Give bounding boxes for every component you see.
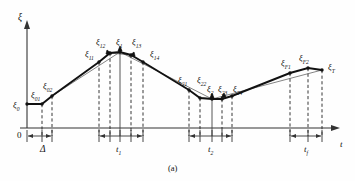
center-dropline-group [120, 52, 212, 136]
xtick-label-t2-sub: 2 [211, 150, 214, 156]
delta-arrow-right [46, 134, 51, 138]
plot-canvas [0, 0, 355, 181]
label-xi21: ξ21 [178, 76, 187, 87]
t1-arrow-right [137, 134, 142, 138]
xtick-label-t1-sub: 1 [119, 150, 122, 156]
label-xi1-sub: 1 [120, 43, 123, 49]
label-xi24: ξ24 [233, 85, 242, 96]
label-xi23-sub: 23 [222, 90, 228, 96]
label-xi12: ξ12 [96, 38, 105, 49]
dropline-group [42, 53, 322, 136]
xtick-label-t2: t2 [208, 145, 213, 156]
node-xi11 [97, 60, 100, 63]
xtick-label-delta: Δ [40, 145, 46, 156]
label-xi22: ξ22 [197, 76, 206, 87]
t1-arrow-left [100, 134, 105, 138]
xtick-label-tf-sub: f [307, 150, 309, 156]
delta-arrow-left [28, 134, 33, 138]
xtick-cluster-t1 [99, 130, 143, 142]
xtick-cluster-delta [27, 130, 52, 142]
y-axis-arrowhead [24, 20, 30, 29]
node-xiF1 [288, 71, 291, 74]
node-xi22 [198, 96, 201, 99]
tf-arrow-right [316, 134, 321, 138]
x-axis-arrowhead [331, 125, 340, 131]
label-xi11-sub: 11 [89, 55, 94, 61]
node-xi02 [50, 94, 53, 97]
label-xiF1-sub: F1 [285, 64, 291, 70]
figure-caption: (a) [168, 164, 177, 173]
origin-label: 0 [17, 131, 22, 140]
label-xi2: ξ2 [207, 85, 213, 96]
xtick-label-delta-base: Δ [40, 144, 46, 154]
x-axis-label: t [340, 140, 343, 149]
node-xiF2 [306, 66, 309, 69]
label-xiT-sub: T [332, 68, 335, 74]
label-xi13: ξ13 [132, 38, 141, 49]
label-xi11: ξ11 [85, 50, 94, 61]
label-xi02: ξ02 [43, 82, 52, 93]
y-axis-label: ξ [18, 13, 22, 23]
label-xiT: ξT [328, 63, 335, 74]
label-xiF1: ξF1 [281, 59, 291, 70]
label-xi14: ξ14 [150, 50, 159, 61]
label-xi01: ξ01 [31, 91, 40, 102]
label-xi24-sub: 24 [237, 90, 243, 96]
node-xi0 [25, 102, 28, 105]
node-xiT [320, 68, 323, 71]
label-xi21-sub: 21 [182, 81, 188, 87]
label-xiF2: ξF2 [299, 54, 309, 65]
t2-arrow-left [190, 134, 195, 138]
chord-rise-xi2-xiT [212, 70, 322, 99]
tf-arrow-left [291, 134, 296, 138]
figure-container: ξ t 0 ξ0 ξ01 ξ02 ξ11 ξ12 ξ1 ξ13 ξ14 ξ21 … [0, 0, 355, 181]
label-xi02-sub: 02 [47, 87, 53, 93]
label-xi14-sub: 14 [154, 55, 160, 61]
node-xi01 [40, 102, 43, 105]
xtick-cluster-tf [290, 130, 322, 142]
label-xi01-sub: 01 [35, 96, 41, 102]
node-xi21 [187, 88, 190, 91]
xtick-cluster-t2 [189, 130, 232, 142]
t2-arrow-right [226, 134, 231, 138]
label-xi1: ξ1 [116, 38, 122, 49]
label-xi23: ξ23 [218, 85, 227, 96]
label-xi13-sub: 13 [136, 43, 142, 49]
node-xi14 [141, 60, 144, 63]
label-xi0-sub: 0 [17, 106, 20, 112]
label-xi2-sub: 2 [211, 90, 214, 96]
label-xi12-sub: 12 [100, 43, 106, 49]
label-xi22-sub: 22 [201, 81, 207, 87]
label-xiF2-sub: F2 [303, 59, 309, 65]
trajectory-polyline [27, 52, 322, 104]
xtick-label-t1: t1 [116, 145, 121, 156]
xtick-label-tf: tf [304, 145, 308, 156]
label-xi0: ξ0 [13, 101, 19, 112]
